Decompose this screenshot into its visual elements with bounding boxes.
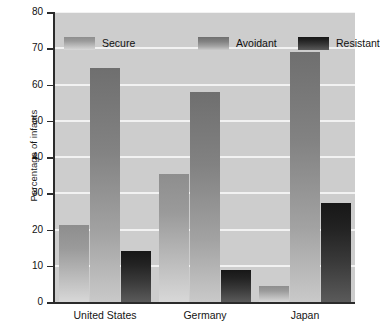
y-axis-tick	[47, 157, 54, 159]
y-axis-tick-label: 70	[3, 43, 43, 53]
legend-item-secure: Secure	[64, 34, 135, 52]
y-axis-tick-label: 0	[3, 297, 43, 307]
y-axis-tick	[47, 12, 54, 14]
legend: SecureAvoidantResistant	[55, 34, 355, 54]
plot-area	[55, 12, 355, 302]
y-axis-tick-label: 10	[3, 261, 43, 271]
y-axis-tick-label: 40	[3, 152, 43, 162]
bar-avoidant-japan	[290, 52, 320, 302]
y-axis-tick-label: 20	[3, 225, 43, 235]
bar-resistant-united-states	[121, 251, 151, 302]
bar-resistant-japan	[321, 203, 351, 302]
legend-label-secure: Secure	[102, 37, 135, 49]
y-axis-tick	[47, 266, 54, 268]
y-axis-tick	[47, 85, 54, 87]
x-axis-label-japan: Japan	[255, 309, 355, 321]
bar-secure-united-states	[59, 225, 89, 302]
bar-secure-japan	[259, 286, 289, 302]
legend-item-resistant: Resistant	[298, 34, 380, 52]
legend-swatch-secure-icon	[64, 37, 95, 50]
legend-item-avoidant: Avoidant	[198, 34, 277, 52]
y-axis-tick	[47, 193, 54, 195]
bar-avoidant-germany	[190, 92, 220, 302]
x-axis-label-united-states: United States	[55, 309, 155, 321]
bar-resistant-germany	[221, 270, 251, 302]
x-axis-label-germany: Germany	[155, 309, 255, 321]
legend-label-resistant: Resistant	[336, 37, 380, 49]
legend-swatch-avoidant-icon	[198, 37, 229, 50]
y-axis-tick-label: 50	[3, 116, 43, 126]
y-axis-tick-label: 30	[3, 188, 43, 198]
y-axis-tick	[47, 48, 54, 50]
bar-avoidant-united-states	[90, 68, 120, 302]
y-axis-tick-label: 60	[3, 80, 43, 90]
gridline	[55, 12, 355, 13]
legend-label-avoidant: Avoidant	[236, 37, 277, 49]
bar-secure-germany	[159, 174, 189, 302]
x-axis-line	[53, 302, 355, 304]
y-axis-tick	[47, 302, 54, 304]
legend-swatch-resistant-icon	[298, 37, 329, 50]
y-axis-tick	[47, 230, 54, 232]
y-axis-tick-label: 80	[3, 7, 43, 17]
y-axis-tick	[47, 121, 54, 123]
